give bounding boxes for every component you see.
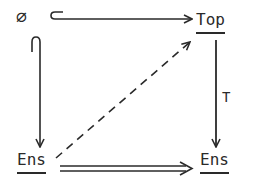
arrow-empty-to-top [51, 12, 192, 19]
node-empty-set: ∅ [16, 8, 27, 26]
node-ens-left: Ens [17, 151, 46, 174]
arrow-ens-to-ens-double [60, 162, 192, 175]
arrow-label-t: T [222, 88, 230, 106]
arrow-empty-to-ens [32, 37, 40, 147]
commutative-diagram: ∅ Top T Ens Ens [0, 0, 257, 188]
node-top: Top [196, 11, 225, 34]
arrow-ens-to-top-dashed [56, 42, 190, 158]
node-ens-right: Ens [200, 151, 229, 174]
